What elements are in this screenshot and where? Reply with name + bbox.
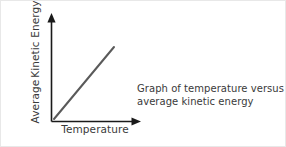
y-axis-label-line2: Kinetic Energy (29, 0, 42, 77)
caption-line-1: Graph of temperature versus (137, 83, 283, 96)
plot-area: Average Kinetic Energy Temperature (1, 1, 286, 147)
figure-caption: Graph of temperature versus average kine… (137, 83, 283, 108)
data-series-line (54, 47, 114, 119)
figure-root: Average Kinetic Energy Temperature Graph… (0, 0, 286, 147)
y-axis-label: Average Kinetic Energy (18, 10, 52, 114)
y-axis-label-line1: Average (29, 80, 42, 124)
x-axis-label: Temperature (51, 122, 139, 136)
caption-line-2: average kinetic energy (137, 96, 283, 109)
